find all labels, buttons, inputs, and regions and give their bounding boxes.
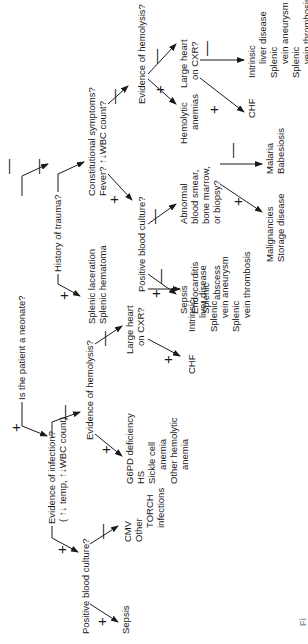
neonate-cmv-outcome: CMV Other TORCH infections	[122, 488, 166, 542]
neonate-chf-outcome: CHF	[186, 354, 197, 374]
neonate-sepsis-outcome: Sepsis	[120, 605, 131, 634]
neonate-large-heart-question: Large heart on CXR?	[124, 305, 146, 354]
minus-sign: —	[96, 331, 111, 346]
neonate-hemolytic-outcomes: G6PD deficiency HS Sickle cell anemia Ot…	[124, 413, 190, 484]
plus-sign: +	[54, 545, 69, 554]
malaria-outcomes: Malaria Babesiosis	[264, 128, 286, 174]
figure-caption: Fi	[298, 618, 308, 626]
minus-sign: —	[152, 269, 167, 284]
plus-sign: +	[148, 289, 163, 298]
minus-sign: —	[148, 49, 163, 64]
plus-sign: +	[56, 291, 71, 300]
abnormal-smear-question: Abnormal blood smear, bone marrow, or bi…	[178, 166, 222, 224]
sepsis-outcomes: Sepsis Endocarditis Splenic abscess	[178, 262, 222, 314]
plus-sign: +	[8, 423, 23, 432]
malignancy-outcomes: Malignancies Storage disease	[264, 193, 286, 262]
trauma-question: History of trauma?	[52, 194, 63, 272]
plus-sign: +	[230, 197, 245, 206]
minus-sign: —	[106, 89, 121, 104]
minus-sign: —	[224, 143, 239, 158]
flowchart-diagram: Is the patient a neonate? + — Evidence o…	[0, 0, 308, 644]
minus-sign: —	[198, 41, 213, 56]
plus-sign: +	[94, 617, 109, 626]
neonate-hemolysis-question: Evidence of hemolysis?	[84, 340, 95, 440]
liver-outcomes: Intrinsic liver disease Splenic vein ane…	[246, 0, 308, 78]
hemolysis-question: Evidence of hemolysis?	[136, 4, 147, 104]
minus-sign: —	[146, 209, 161, 224]
infection-question: Evidence of infection? ( ↑↓ temp, ↑↓WBC …	[46, 417, 68, 524]
plus-sign: +	[106, 195, 121, 204]
plus-sign: +	[160, 355, 175, 364]
neonate-blood-culture-question: Positive blood culture?	[80, 538, 91, 634]
minus-sign: —	[94, 524, 109, 539]
hemolytic-outcomes: Hemolytic anemias	[178, 94, 200, 144]
plus-sign: +	[206, 105, 221, 114]
chf-outcome: CHF	[246, 98, 257, 118]
plus-sign: +	[98, 445, 113, 454]
minus-sign: —	[0, 159, 15, 174]
minus-sign: —	[30, 159, 45, 174]
plus-sign: +	[152, 85, 167, 94]
connector-lines	[0, 0, 308, 644]
root-question: Is the patient a neonate?	[16, 295, 27, 400]
trauma-outcomes: Splenic laceration Splenic hematoma	[86, 245, 108, 324]
minus-sign: —	[56, 405, 71, 420]
